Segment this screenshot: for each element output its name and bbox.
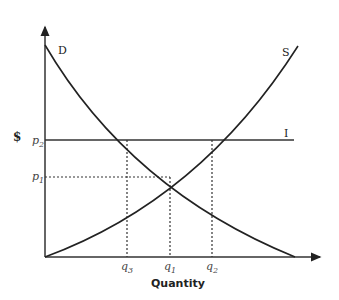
p2-label: p2 — [32, 134, 44, 149]
demand-label: D — [58, 44, 67, 57]
p1-label: p1 — [32, 170, 44, 185]
y-axis-label: $ — [13, 130, 21, 144]
q3-label: q3 — [121, 260, 133, 275]
price-line-label: I — [284, 127, 288, 140]
x-axis-label: Quantity — [151, 277, 205, 290]
supply-label: S — [282, 46, 290, 59]
q2-label: q2 — [206, 260, 218, 275]
q1-label: q1 — [164, 260, 176, 275]
supply-curve — [45, 46, 298, 257]
supply-demand-diagram: D S I $ p2 p1 q3 q1 q2 Quantity — [0, 0, 339, 300]
